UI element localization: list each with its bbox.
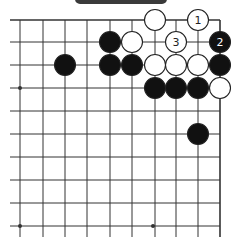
white-stone (188, 55, 209, 76)
white-stone-3: 3 (166, 32, 187, 53)
star-point (18, 224, 22, 228)
move-number: 2 (217, 36, 224, 49)
go-board: 132 (0, 0, 240, 245)
white-stone (145, 10, 166, 31)
stones-layer: 132 (55, 10, 231, 145)
black-stone (210, 55, 231, 76)
white-stone (210, 78, 231, 99)
black-stone-2: 2 (210, 32, 231, 53)
black-stone (145, 78, 166, 99)
star-point (18, 86, 22, 90)
move-number: 1 (195, 14, 202, 27)
star-point (151, 224, 155, 228)
black-stone (55, 55, 76, 76)
black-stone (166, 78, 187, 99)
black-stone (188, 78, 209, 99)
black-stone (100, 55, 121, 76)
white-stone (145, 55, 166, 76)
white-stone (122, 32, 143, 53)
white-stone (166, 55, 187, 76)
black-stone (188, 124, 209, 145)
white-stone-1: 1 (188, 10, 209, 31)
black-stone (122, 55, 143, 76)
move-number: 3 (173, 36, 180, 49)
black-stone (100, 32, 121, 53)
